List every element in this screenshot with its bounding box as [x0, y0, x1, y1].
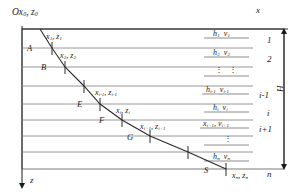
coordinate-label-i-plus-1: xi+1, zi+1 — [140, 123, 165, 132]
coordinate-label-1: x1, z1 — [46, 33, 62, 42]
figure-vector-layer — [0, 0, 300, 194]
frame-box — [22, 29, 284, 169]
ray-point-label-E: E — [77, 100, 82, 109]
ray-point-label-F: F — [99, 116, 104, 125]
coordinate-label-2: x2, z2 — [60, 52, 76, 61]
layer-property-2: h2 v2 — [213, 49, 230, 58]
layer-property-i: hi vi — [213, 104, 228, 113]
layer-number-i-minus-1: i-1 — [259, 91, 269, 100]
layer-number-i-plus-1: i+1 — [259, 125, 272, 134]
layer-property-n: hn vn — [213, 153, 230, 162]
layer-number-n: n — [267, 170, 272, 179]
z-axis-label: z — [30, 176, 34, 185]
ray-point-label-A: A — [27, 44, 32, 53]
layer-property-1: h1 v1 — [213, 30, 230, 39]
coordinate-label-i-minus-1: xi-1, zi-1 — [95, 89, 117, 98]
layer-number-1: 1 — [267, 36, 272, 45]
layer-property-ellipsis-2: ⋮ — [224, 135, 232, 143]
ray-point-label-G: G — [127, 133, 133, 142]
layer-number-i: i — [267, 109, 270, 118]
interface-lines — [22, 48, 253, 152]
coordinate-label-n: xn, zn — [232, 172, 248, 181]
coordinate-label-i: xi, zi — [116, 107, 130, 116]
depth-bracket-label-H: H — [276, 86, 285, 93]
crossing-ticks — [52, 42, 226, 176]
layer-property-i-minus-1: hi-1 vi-1 — [206, 86, 229, 95]
layer-number-2: 2 — [267, 55, 272, 64]
ray-point-label-B: B — [41, 63, 46, 72]
ray-point-label-S: S — [204, 166, 208, 175]
origin-label: Ox0, z0 — [12, 8, 38, 18]
ray-path — [40, 29, 226, 169]
ray-path-layered-medium-figure: Ox0, z0 x z H A B E F G S x1, z1 x2, z2 … — [0, 0, 300, 194]
layer-property-i-plus-1: xi+1, vi+1 — [203, 120, 229, 129]
layer-property-ellipsis-1: ⋮ ⋮ — [215, 66, 237, 74]
x-axis-label: x — [256, 6, 260, 15]
